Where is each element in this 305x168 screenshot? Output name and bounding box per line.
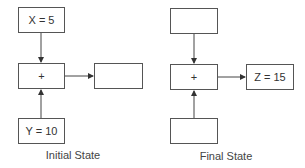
final-caption: Final State: [166, 150, 286, 162]
initial-output-box: [94, 63, 143, 89]
final-bottom-box: [170, 118, 218, 144]
final-add-box: +: [170, 64, 218, 90]
initial-y-box: Y = 10: [18, 118, 65, 144]
initial-x-box: X = 5: [18, 7, 65, 33]
final-z-box: Z = 15: [246, 64, 294, 90]
initial-add-box: +: [18, 63, 65, 89]
final-top-box: [170, 8, 218, 34]
initial-caption: Initial State: [13, 149, 133, 161]
